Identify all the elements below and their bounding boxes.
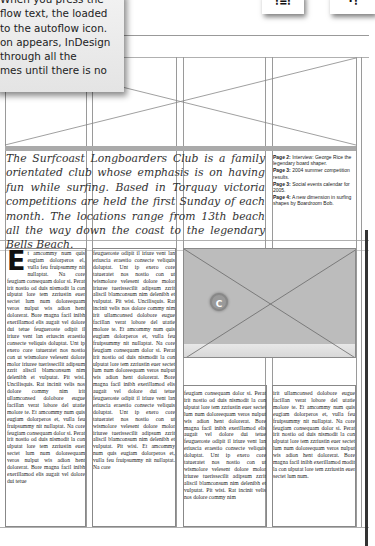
body-column-3: feugiam consequam dolor si. Perat irit n…	[184, 390, 266, 522]
callout-line: mes until there is no	[0, 63, 124, 77]
contents-list[interactable]: Page 2: Interview: George Rice the legen…	[273, 154, 356, 207]
callout-line: on appears, InDesign	[0, 35, 124, 49]
intro-text-frame[interactable]: The Surfcoast Longboarders Club is a fam…	[5, 146, 266, 240]
callout-line: through all the	[0, 49, 124, 63]
callout-line: flow text, the loaded	[0, 6, 124, 20]
column-guide	[356, 57, 357, 527]
body-column-1: Et amcommy num quis eugiam dolorperos el…	[7, 250, 85, 522]
body-column-4: irit ullamconsed dolobore eugue facillan…	[273, 390, 355, 522]
image-placeholder-frame[interactable]: C	[183, 248, 356, 358]
callout-line: to the autoflow icon.	[0, 21, 124, 35]
contents-item: Page 3: 2004 summer competition results.	[273, 167, 356, 179]
contents-item: Page 3: Social events calendar for 2005.	[273, 181, 356, 193]
page-edge	[365, 230, 368, 546]
contents-item: Page 4: A new dimension in surfing shape…	[273, 194, 356, 206]
drop-cap: E	[7, 250, 25, 271]
intro-paragraph: The Surfcoast Longboarders Club is a fam…	[6, 152, 265, 253]
content-grabber-icon[interactable]: C	[210, 293, 228, 311]
column-guide	[361, 57, 362, 527]
instruction-callout: When you press the flow text, the loaded…	[0, 0, 124, 92]
body-column-2: feugueroste odipit il iriure vent lan er…	[93, 250, 175, 522]
autoflow-cursor-icon: ⁝≡⁝	[262, 0, 304, 14]
bottom-margin-guide	[0, 527, 369, 528]
contents-item: Page 2: Interview: George Rice the legen…	[273, 154, 356, 166]
frame-highlight-bar	[5, 146, 356, 151]
semi-autoflow-cursor-icon: ·⁝	[330, 0, 375, 14]
